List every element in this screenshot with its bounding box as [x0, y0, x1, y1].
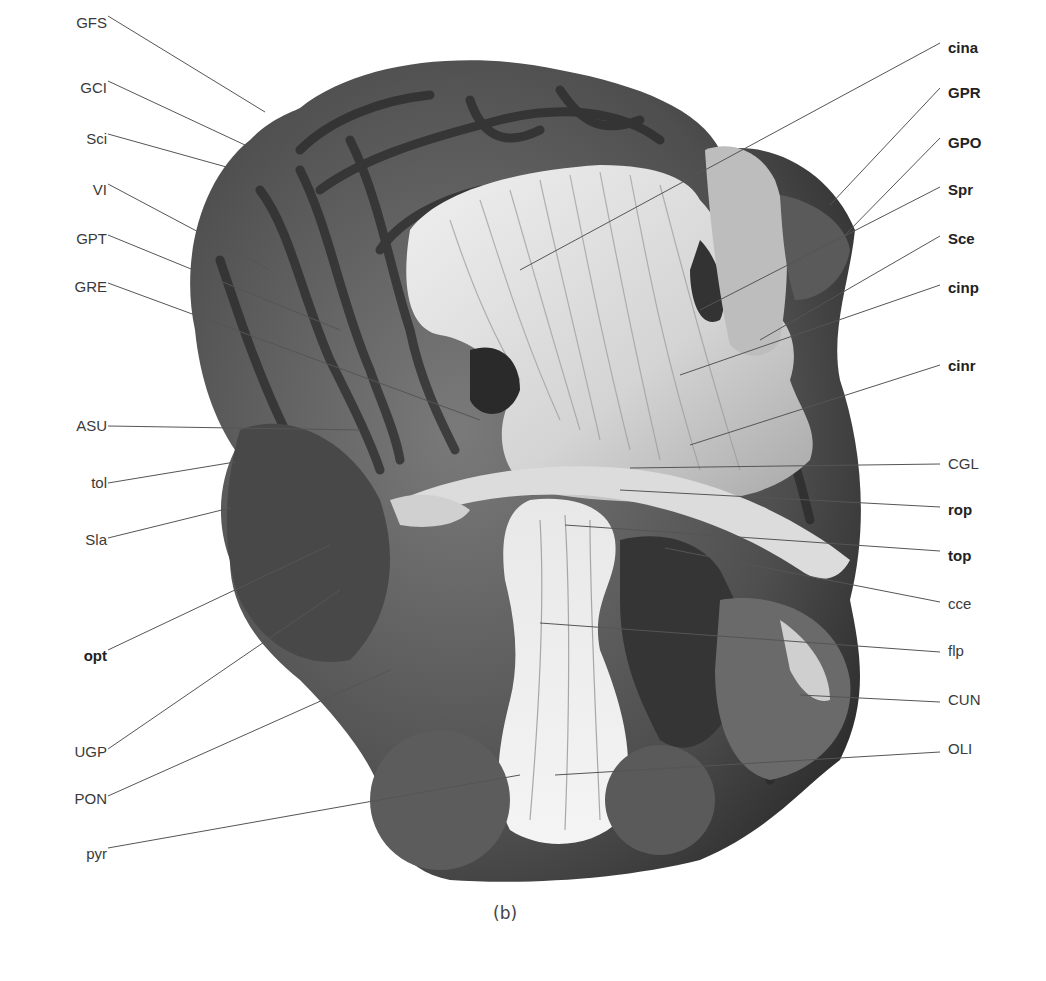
leader-line-cina	[520, 43, 940, 270]
leader-line-vi	[108, 184, 270, 270]
label-gfs: GFS	[47, 14, 107, 32]
label-rop: rop	[948, 501, 972, 519]
leader-line-asu	[108, 426, 360, 430]
label-gci: GCI	[47, 79, 107, 97]
leader-line-gre	[108, 283, 480, 420]
label-sla: Sla	[47, 531, 107, 549]
label-gre: GRE	[47, 278, 107, 296]
label-gpt: GPT	[47, 230, 107, 248]
label-gpo: GPO	[948, 134, 981, 152]
leader-line-sci	[108, 134, 230, 168]
label-flp: flp	[948, 642, 964, 660]
leader-lines	[0, 0, 1046, 981]
leader-line-ugp	[108, 590, 340, 749]
leader-line-gpt	[108, 235, 340, 330]
label-opt: opt	[47, 647, 107, 665]
label-asu: ASU	[47, 417, 107, 435]
leader-line-sla	[108, 508, 230, 538]
label-oli: OLI	[948, 740, 972, 758]
leader-line-pyr	[108, 775, 520, 848]
leader-line-spr	[700, 187, 940, 310]
leader-line-flp	[540, 623, 940, 652]
label-spr: Spr	[948, 181, 973, 199]
leader-line-gpr	[830, 88, 940, 205]
label-cun: CUN	[948, 691, 981, 709]
label-top: top	[948, 547, 971, 565]
label-sci: Sci	[47, 130, 107, 148]
label-pyr: pyr	[47, 845, 107, 863]
leader-line-cun	[800, 695, 940, 702]
label-cinp: cinp	[948, 279, 979, 297]
label-vi: VI	[47, 181, 107, 199]
figure-stage: GFSGCISciVIGPTGREASUtolSlaoptUGPPONpyrci…	[0, 0, 1046, 981]
leader-line-cgl	[630, 464, 940, 468]
label-sce: Sce	[948, 230, 975, 248]
leader-line-pon	[108, 670, 390, 796]
figure-caption: (b)	[493, 903, 517, 923]
leader-line-top	[565, 525, 940, 551]
leader-line-cinp	[680, 285, 940, 375]
leader-line-opt	[108, 545, 330, 650]
leader-line-oli	[555, 752, 940, 775]
label-ugp: UGP	[47, 743, 107, 761]
leader-line-cinr	[690, 365, 940, 445]
label-cinr: cinr	[948, 357, 976, 375]
label-cina: cina	[948, 39, 978, 57]
label-pon: PON	[47, 790, 107, 808]
leader-line-cce	[665, 548, 940, 602]
label-cgl: CGL	[948, 455, 979, 473]
leader-line-tol	[108, 462, 235, 483]
leader-line-gpo	[845, 138, 940, 235]
label-tol: tol	[47, 474, 107, 492]
leader-line-sce	[760, 236, 940, 340]
label-gpr: GPR	[948, 84, 981, 102]
leader-line-gfs	[108, 16, 265, 112]
label-cce: cce	[948, 595, 971, 613]
leader-line-gci	[108, 81, 245, 145]
leader-line-rop	[620, 490, 940, 507]
